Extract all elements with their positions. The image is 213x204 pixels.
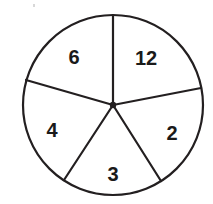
pie-center-dot	[110, 102, 116, 108]
pie-chart-figure: 12 2 3 4 6	[0, 0, 213, 204]
scan-artifact-speck	[33, 4, 35, 7]
sector-label-12: 12	[135, 48, 157, 68]
sector-label-6: 6	[68, 47, 79, 67]
sector-label-2: 2	[166, 123, 177, 143]
sector-label-4: 4	[46, 120, 57, 140]
sector-label-3: 3	[107, 164, 118, 184]
